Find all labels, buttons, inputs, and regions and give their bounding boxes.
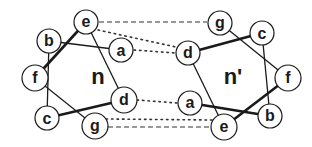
node-left-f: f [22,65,48,91]
node-left-g: g [82,113,108,139]
node-right-d: d [176,41,200,65]
dotted-line-d-a [137,100,177,103]
node-right-f: f [275,65,301,91]
node-left-b: b [37,29,61,53]
svg-text:d: d [119,91,129,108]
node-right-e: e [211,114,237,140]
node-right-b: b [258,104,282,128]
dotted-line-a-d [134,50,175,53]
node-left-a: a [109,38,133,62]
svg-text:b: b [44,32,54,49]
svg-text:a: a [117,42,126,59]
helical-wheel-diagram: e b a f d c g n g c d f a b e n' [0,0,312,147]
svg-text:c: c [258,25,267,42]
svg-text:a: a [186,94,195,111]
svg-text:d: d [183,44,193,61]
svg-text:f: f [285,69,291,86]
node-right-c: c [250,21,274,45]
dotted-line-g-a [106,119,212,120]
svg-text:c: c [43,110,52,127]
node-left-c: c [35,106,59,130]
node-left-e: e [74,10,98,34]
svg-text:f: f [32,69,38,86]
svg-text:e: e [82,13,91,30]
svg-text:b: b [265,107,275,124]
node-left-d: d [111,87,137,113]
svg-text:g: g [90,117,100,134]
ring-label-n: n [91,64,104,89]
node-right-a: a [178,91,202,115]
node-right-g: g [208,11,232,35]
svg-text:e: e [220,118,229,135]
svg-text:g: g [215,14,225,31]
ring-label-n-prime: n' [224,64,243,89]
left-wheel-nodes: e b a f d c g [22,10,137,139]
